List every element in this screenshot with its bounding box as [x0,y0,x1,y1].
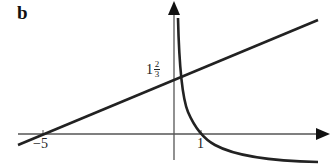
straight-line-series [18,20,318,145]
x-tick-label-1: 1 [197,136,204,152]
y-axis-arrow-icon [168,1,180,15]
x-tick-label-minus5: −5 [33,136,48,152]
x-axis-arrow-icon [316,128,330,140]
y-tick-label-1-2-3: 1 2 3 [146,60,160,79]
figure: b −5 1 1 2 3 [0,0,330,166]
plot-area [0,0,330,166]
